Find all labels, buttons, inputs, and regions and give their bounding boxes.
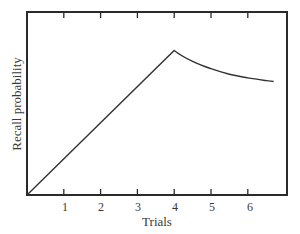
plot-frame [27, 12, 287, 195]
x-tick-label-3: 3 [135, 200, 141, 214]
x-ticks [64, 12, 248, 195]
x-tick-label-5: 5 [209, 200, 215, 214]
x-tick-label-1: 1 [62, 200, 68, 214]
x-tick-labels: 1 2 3 4 5 6 [62, 200, 253, 214]
x-tick-label-4: 4 [172, 200, 178, 214]
chart: 1 2 3 4 5 6 Trials Recall probability [0, 0, 300, 234]
y-axis-label: Recall probability [9, 57, 24, 151]
x-axis-label: Trials [142, 214, 172, 229]
recall-curve [27, 50, 274, 195]
x-tick-label-2: 2 [98, 200, 104, 214]
x-tick-label-6: 6 [247, 200, 253, 214]
